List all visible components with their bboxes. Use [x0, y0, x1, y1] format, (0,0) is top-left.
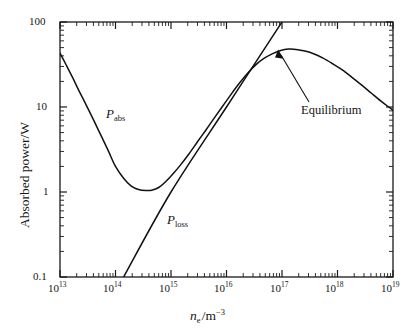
- x-tick-label-1e14: 1014: [103, 283, 122, 294]
- x-tick-label-1e16: 1016: [214, 283, 233, 294]
- x-tick-label-1e15: 1015: [159, 283, 178, 294]
- series-label-p-loss: Ploss: [167, 213, 188, 226]
- y-tick-label-0-1: 0.1: [33, 271, 47, 282]
- x-tick-label-1e13: 1013: [48, 283, 67, 294]
- y-tick-label-10: 10: [36, 101, 47, 112]
- y-tick-label-100: 100: [29, 16, 46, 27]
- series-label-p-abs: Pabs: [106, 107, 125, 120]
- plot-frame: [60, 22, 393, 277]
- x-tick-label-1e18: 1018: [325, 283, 344, 294]
- figure-absorbed-power-chart: 100 10 1 0.1 1013 1014 1015 1016 1017 10…: [0, 0, 419, 336]
- x-tick-label-1e17: 1017: [270, 283, 289, 294]
- x-axis-label: ne /m−3: [190, 309, 225, 323]
- x-axis-ticks: [60, 22, 393, 277]
- y-axis-label: Absorbed power/W: [18, 122, 32, 228]
- equilibrium-arrow: [275, 50, 309, 103]
- annotation-equilibrium-label: Equilibrium: [301, 104, 361, 117]
- y-tick-label-1: 1: [43, 186, 49, 197]
- x-tick-label-1e19: 1019: [381, 283, 400, 294]
- y-axis-ticks: [60, 22, 393, 277]
- curve-p-loss: [124, 20, 284, 277]
